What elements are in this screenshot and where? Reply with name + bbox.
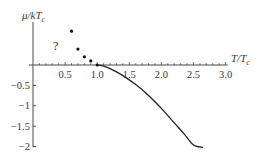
x-tick-label: 1.0 [91,69,104,80]
plot-area [70,30,203,148]
x-tick-label: 0.5 [59,69,72,80]
y-tick-label: −1 [19,100,30,111]
y-axis-label: μ/kTc [21,9,46,24]
annotations: ? [53,38,59,53]
x-tick-label: 2.5 [187,69,200,80]
x-axis-label: T/Tc [231,52,250,67]
data-point [89,59,92,62]
data-point [83,55,86,58]
x-axis: 0.51.01.52.02.53.0 [29,62,232,80]
question-mark-annotation: ? [53,38,59,53]
y-tick-label: −0.5 [11,80,30,91]
y-tick-label: −1.5 [11,121,30,132]
y-tick-label: −2 [19,141,30,152]
y-axis: −0.5−1−1.5−2 [11,22,36,152]
chart: −0.5−1−1.5−2 0.51.01.52.02.53.0 μ/kTc T/… [0,0,261,161]
data-point [76,47,79,50]
data-point [70,30,73,33]
x-tick-label: 3.0 [219,69,232,80]
x-tick-label: 1.5 [123,69,136,80]
x-tick-label: 2.0 [155,69,168,80]
